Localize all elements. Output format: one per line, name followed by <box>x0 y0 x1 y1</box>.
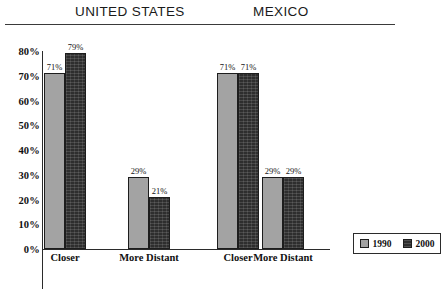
bar-value-label-united-states-closer-2000: 79% <box>61 42 91 52</box>
bar-mexico-more-distant-2000 <box>283 177 304 249</box>
y-axis-tick-10: 10% <box>4 219 40 230</box>
plot-area: 0%10%20%30%40%50%60%70%80% 71%79%29%21%7… <box>0 40 445 255</box>
legend-label-2000: 2000 <box>416 239 435 249</box>
bar-mexico-closer-2000 <box>238 73 259 249</box>
y-axis-tick-labels: 0%10%20%30%40%50%60%70%80% <box>0 40 40 255</box>
bar-united-states-closer-1990 <box>44 73 65 249</box>
y-axis-tick-60: 60% <box>4 95 40 106</box>
legend-item-1990: 1990 <box>360 239 392 249</box>
chart-legend: 1990 2000 <box>353 233 441 254</box>
legend-swatch-2000-icon <box>403 239 412 248</box>
panel-title-united-states: UNITED STATES <box>75 4 185 19</box>
y-axis-tick-30: 30% <box>4 169 40 180</box>
bar-mexico-closer-1990 <box>217 73 238 249</box>
bar-united-states-closer-2000 <box>65 53 86 249</box>
y-axis-tick-70: 70% <box>4 70 40 81</box>
bar-united-states-more-distant-2000 <box>149 197 170 249</box>
y-axis-tick-80: 80% <box>4 46 40 57</box>
x-label-united-states-closer: Closer <box>50 252 79 263</box>
bar-mexico-more-distant-1990 <box>262 177 283 249</box>
y-axis-tick-40: 40% <box>4 145 40 156</box>
legend-swatch-1990-icon <box>360 239 369 248</box>
bar-value-label-mexico-more-distant-2000: 29% <box>279 166 309 176</box>
legend-label-1990: 1990 <box>373 239 392 249</box>
x-label-united-states-more-distant: More Distant <box>119 252 179 263</box>
bar-value-label-united-states-more-distant-1990: 29% <box>124 166 154 176</box>
header-divider-rule <box>5 24 395 25</box>
y-axis-line <box>42 51 43 289</box>
legend-item-2000: 2000 <box>403 239 435 249</box>
panel-header-band: UNITED STATES MEXICO <box>0 0 445 30</box>
y-axis-tick-0: 0% <box>4 244 40 255</box>
y-axis-tick-50: 50% <box>4 120 40 131</box>
x-label-mexico-closer: Closer <box>223 252 252 263</box>
bar-value-label-mexico-closer-2000: 71% <box>234 62 264 72</box>
bar-value-label-united-states-more-distant-2000: 21% <box>145 186 175 196</box>
x-label-mexico-more-distant: More Distant <box>253 252 313 263</box>
panel-title-mexico: MEXICO <box>253 4 309 19</box>
y-axis-tick-20: 20% <box>4 194 40 205</box>
x-axis-baseline <box>42 249 330 250</box>
